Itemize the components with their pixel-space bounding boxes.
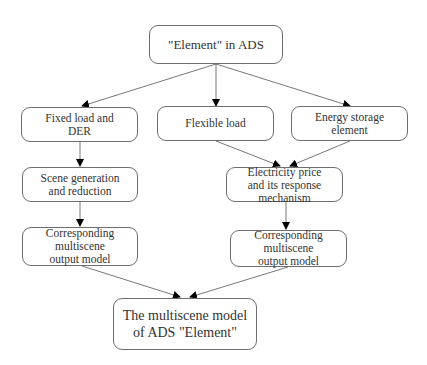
node-label-line: Corresponding — [254, 229, 322, 242]
node-label-line: The multiscene model — [123, 307, 247, 324]
node-label-line: output model — [46, 253, 114, 266]
edge-output-left-to-final — [82, 266, 180, 297]
node-label-line: and its response — [248, 179, 322, 192]
edge-flexible-load-to-electricity-price — [216, 141, 280, 166]
node-fixed-load-and-der: Fixed load and DER — [21, 107, 138, 142]
node-label-line: DER — [45, 125, 113, 138]
node-corresponding-output-left: Corresponding multiscene output model — [22, 227, 138, 266]
node-label-line: output model — [254, 255, 322, 268]
node-electricity-price-response: Electricity price and its response mecha… — [226, 167, 343, 202]
node-label-line: Corresponding — [46, 227, 114, 240]
node-label-line: mechanism — [248, 192, 322, 205]
node-label-line: of ADS "Element" — [123, 324, 247, 341]
node-multiscene-model-of-ads-element: The multiscene model of ADS "Element" — [113, 298, 257, 350]
node-label-line: Energy storage — [315, 111, 384, 124]
node-scene-generation-and-reduction: Scene generation and reduction — [22, 167, 138, 202]
edge-energy-storage-to-electricity-price — [290, 141, 350, 166]
node-label-line: Electricity price — [248, 166, 322, 179]
node-energy-storage-element: Energy storage element — [291, 106, 408, 141]
node-flexible-load: Flexible load — [157, 106, 274, 141]
node-element-in-ads: "Element" in ADS — [149, 25, 283, 64]
node-label-line: multiscene — [254, 242, 322, 255]
node-label-line: and reduction — [41, 185, 120, 198]
node-label-line: "Element" in ADS — [168, 37, 264, 52]
flowchart-canvas: "Element" in ADS Fixed load and DER Flex… — [0, 0, 427, 365]
edge-root-to-energy-storage — [216, 64, 350, 106]
edge-root-to-fixed-load — [82, 64, 216, 106]
node-label-line: Flexible load — [185, 117, 245, 130]
node-label-line: Scene generation — [41, 172, 120, 185]
node-corresponding-output-right: Corresponding multiscene output model — [230, 230, 347, 267]
node-label-line: Fixed load and — [45, 112, 113, 125]
edge-output-right-to-final — [190, 267, 288, 297]
node-label-line: multiscene — [46, 240, 114, 253]
node-label-line: element — [315, 124, 384, 137]
